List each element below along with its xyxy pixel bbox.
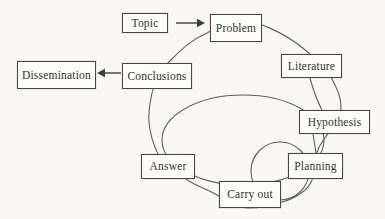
arrow-topic-to-problem	[176, 19, 205, 27]
node-planning: Planning	[288, 153, 343, 179]
node-topic: Topic	[122, 13, 168, 33]
research-cycle-diagram: Topic Problem Literature Hypothesis Plan…	[0, 0, 385, 219]
node-answer-label: Answer	[150, 160, 187, 173]
node-conclusions: Conclusions	[122, 63, 192, 89]
hypothesis-planning-connector	[313, 134, 316, 153]
node-literature: Literature	[281, 54, 342, 78]
node-dissemination-label: Dissemination	[22, 69, 91, 82]
node-answer: Answer	[141, 154, 195, 179]
node-dissemination: Dissemination	[17, 61, 96, 89]
node-hypothesis-label: Hypothesis	[308, 116, 362, 129]
node-conclusions-label: Conclusions	[127, 70, 186, 83]
node-carry-out-label: Carry out	[227, 188, 273, 201]
node-problem: Problem	[210, 14, 262, 42]
node-planning-label: Planning	[294, 160, 337, 173]
arrow-head-icon	[97, 69, 105, 77]
node-problem-label: Problem	[216, 22, 256, 35]
node-carry-out: Carry out	[219, 181, 281, 208]
node-topic-label: Topic	[131, 17, 158, 30]
arrow-conclusions-to-dissemination	[97, 69, 121, 77]
literature-hypothesis-connector	[310, 78, 322, 110]
node-literature-label: Literature	[288, 60, 335, 73]
arrow-head-icon	[197, 19, 205, 27]
node-hypothesis: Hypothesis	[299, 110, 370, 134]
